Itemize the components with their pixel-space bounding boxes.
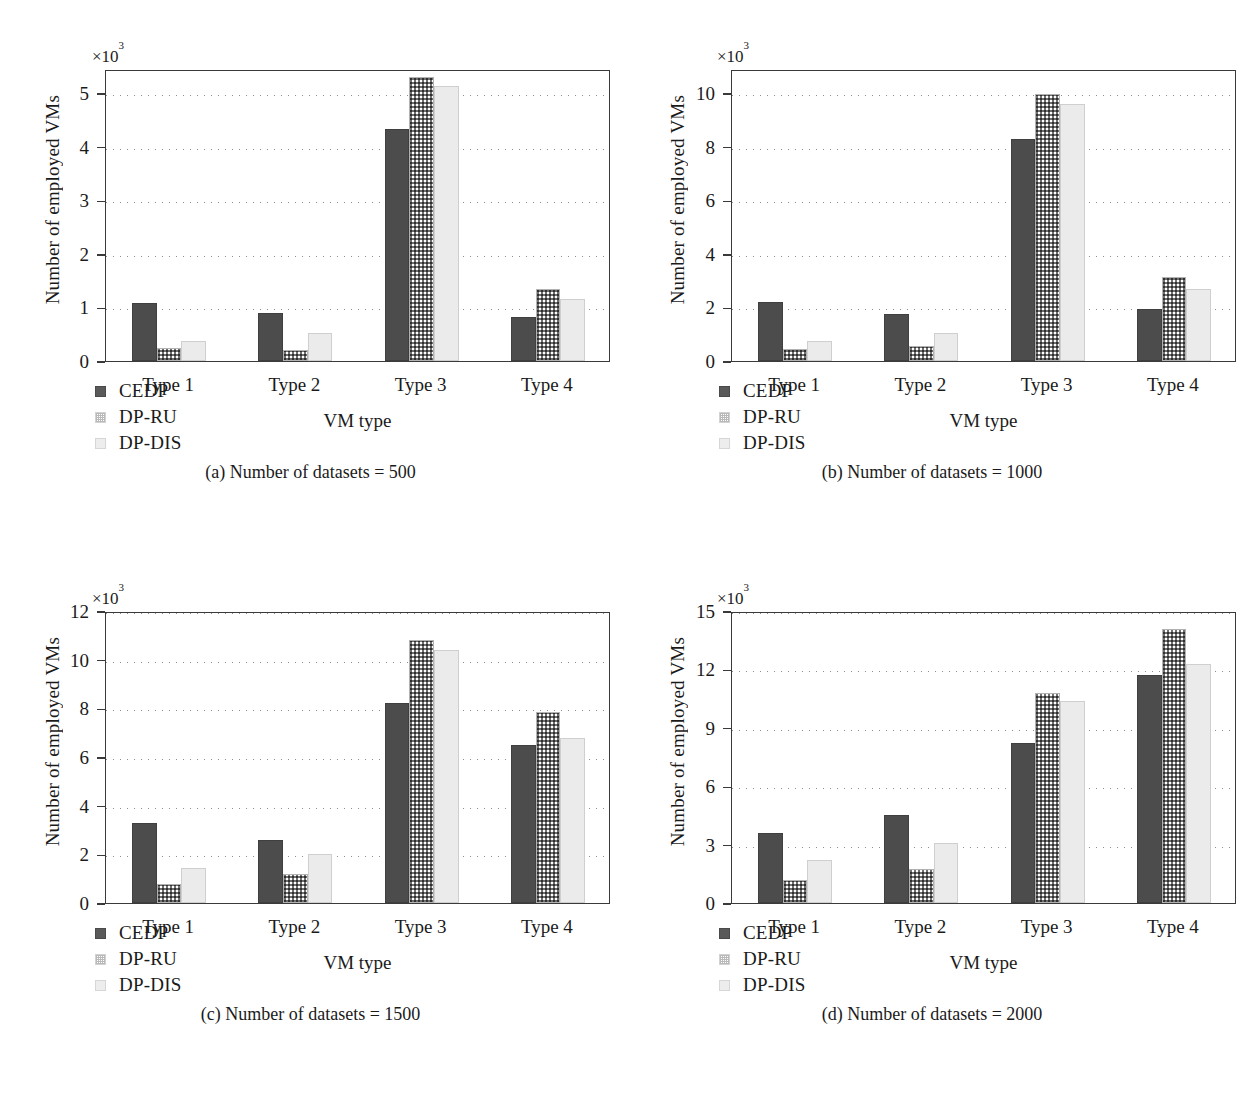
gridline [732,256,1235,257]
bar-b-dpdis-g3 [1060,104,1085,361]
legend-c: CEDPDP-RUDP-DIS [95,920,181,998]
plot-area-c [105,612,610,904]
legend-item-dp-dis[interactable]: DP-DIS [95,430,181,456]
bar-a-dpdis-g2 [308,333,333,361]
x-tick-label: Type 3 [395,916,447,938]
bar-b-dpru-g1 [783,349,808,361]
legend-item-dp-dis[interactable]: DP-DIS [95,972,181,998]
y-tick-mark [723,845,731,846]
y-tick-label: 0 [47,351,89,373]
bar-c-cedp-g2 [258,840,283,903]
bar-b-dpdis-g4 [1186,289,1211,361]
bar-b-dpdis-g2 [934,333,959,361]
panel-grid: Number of employed VMs×103012345Type 1Ty… [0,0,1243,1114]
bar-d-cedp-g4 [1137,675,1162,903]
x-tick-label: Type 2 [268,374,320,396]
bar-a-dpru-g2 [283,350,308,361]
y-tick-mark [723,361,731,362]
bar-c-dpru-g3 [409,640,434,903]
y-tick-label: 6 [47,747,89,769]
bar-c-cedp-g4 [511,745,536,903]
bar-a-cedp-g2 [258,313,283,361]
legend-label: CEDP [119,380,168,402]
dark-solid-swatch [719,928,730,939]
x-axis-label: VM type [949,410,1017,432]
y-tick-label: 12 [47,601,89,623]
y-tick-mark [97,147,105,148]
gridline [106,710,609,711]
y-tick-label: 4 [47,796,89,818]
bar-d-dpdis-g2 [934,843,959,903]
legend-item-cedp[interactable]: CEDP [95,920,181,946]
panel-b: Number of employed VMs×1030246810Type 1T… [621,0,1243,557]
y-tick-label: 8 [47,698,89,720]
legend-item-cedp[interactable]: CEDP [95,378,181,404]
y-tick-label: 2 [47,244,89,266]
legend-item-cedp[interactable]: CEDP [719,920,805,946]
panel-d: Number of employed VMs×10303691215Type 1… [621,557,1243,1114]
y-tick-label: 12 [673,659,715,681]
bar-a-dpru-g1 [157,348,182,361]
y-tick-mark [97,855,105,856]
gridline [732,613,1235,614]
bar-d-dpru-g4 [1162,629,1187,903]
legend-item-cedp[interactable]: CEDP [719,378,805,404]
dark-solid-swatch [95,386,106,397]
x-tick-label: Type 3 [1021,374,1073,396]
y-tick-label: 6 [673,190,715,212]
gridline [106,256,609,257]
dark-solid-swatch [719,386,730,397]
y-tick-label: 10 [673,83,715,105]
legend-item-dp-ru[interactable]: DP-RU [95,946,181,972]
y-tick-mark [97,709,105,710]
gridline [106,95,609,96]
legend-label: DP-RU [119,948,177,970]
y-axis-exponent-label: ×103 [717,587,749,609]
y-tick-label: 0 [47,893,89,915]
legend-label: DP-DIS [119,974,181,996]
x-tick-label: Type 3 [395,374,447,396]
gridline [732,671,1235,672]
y-tick-mark [723,787,731,788]
bar-b-cedp-g1 [758,302,783,361]
y-tick-label: 15 [673,601,715,623]
dotted-pattern-swatch [719,412,730,423]
gridline [732,202,1235,203]
y-tick-mark [97,757,105,758]
legend-item-dp-ru[interactable]: DP-RU [719,404,805,430]
light-gray-swatch [95,980,106,991]
y-tick-mark [97,361,105,362]
x-tick-label: Type 4 [1147,374,1199,396]
chart-b: Number of employed VMs×1030246810Type 1T… [621,0,1243,557]
legend-label: CEDP [119,922,168,944]
legend-item-dp-ru[interactable]: DP-RU [95,404,181,430]
legend-item-dp-dis[interactable]: DP-DIS [719,430,805,456]
bar-b-cedp-g3 [1011,139,1036,361]
dotted-pattern-swatch [95,412,106,423]
bar-d-dpru-g3 [1035,693,1060,903]
y-tick-label: 3 [47,190,89,212]
bar-a-dpru-g3 [409,77,434,361]
bar-b-dpru-g4 [1162,277,1187,361]
caption-c: (c) Number of datasets = 1500 [0,1004,621,1025]
y-tick-mark [723,93,731,94]
legend-item-dp-ru[interactable]: DP-RU [719,946,805,972]
bar-d-dpdis-g3 [1060,701,1085,903]
caption-b: (b) Number of datasets = 1000 [621,462,1243,483]
y-tick-label: 2 [47,844,89,866]
chart-d: Number of employed VMs×10303691215Type 1… [621,557,1243,1114]
y-tick-mark [97,308,105,309]
gridline [106,149,609,150]
bar-d-dpdis-g4 [1186,664,1211,903]
y-tick-mark [723,147,731,148]
plot-area-d [731,612,1236,904]
y-tick-label: 5 [47,83,89,105]
y-tick-label: 4 [47,137,89,159]
y-tick-label: 0 [673,351,715,373]
plot-area-a [105,70,610,362]
bar-d-cedp-g3 [1011,743,1036,903]
y-tick-mark [97,660,105,661]
legend-item-dp-dis[interactable]: DP-DIS [719,972,805,998]
y-tick-mark [97,254,105,255]
x-tick-label: Type 2 [894,916,946,938]
